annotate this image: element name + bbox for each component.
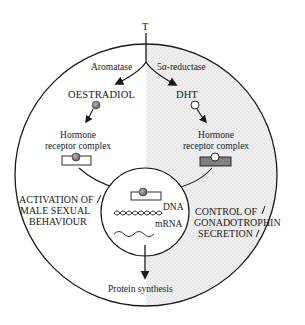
dht-label: DHT (176, 90, 198, 101)
aromatase-label: Aromatase (91, 63, 132, 73)
oestradiol-label: OESTRADIOL (68, 90, 135, 101)
oestradiol-to-receptor-arrow (86, 109, 93, 122)
mrna-label: mRNA (155, 220, 182, 230)
effect-right-line2: GONADOTROPHIN (194, 217, 281, 228)
oestradiol-molecule-icon (92, 101, 100, 109)
effect-right-line1: CONTROL OF (195, 206, 257, 217)
dna-label: DNA (163, 203, 184, 213)
dht-molecule-icon (191, 101, 199, 109)
5a-reductase-label: 5α-reductase (157, 63, 206, 73)
right-hormone-label: Hormone (176, 131, 256, 141)
effect-left-line1: ACTIVATION OF (19, 194, 94, 205)
protein-synthesis-label: Protein synthesis (108, 285, 173, 295)
boundary-tick-left (97, 195, 101, 203)
left-hormone-label: Hormone (38, 131, 118, 141)
right-receptor-complex-label: receptor complex (172, 142, 260, 152)
effect-right-line3: SECRETION (198, 228, 253, 239)
testosterone-label: T (142, 22, 149, 33)
left-receptor-complex-label: receptor complex (34, 142, 122, 152)
left-receptor-complex-icon (62, 153, 91, 165)
effect-left-line3: BEHAVIOUR (29, 216, 87, 227)
diagram-canvas (0, 0, 305, 325)
effect-left-line2: MALE SEXUAL (20, 205, 90, 216)
